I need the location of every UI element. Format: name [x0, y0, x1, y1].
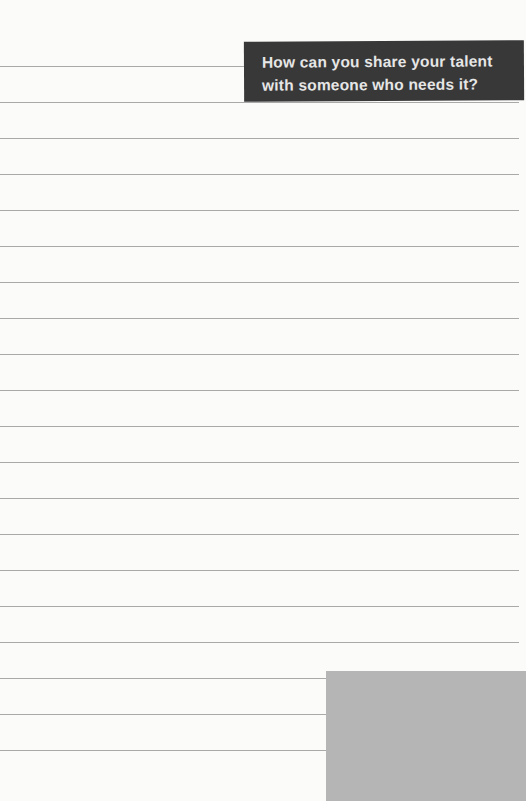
prompt-banner: How can you share your talent with someo… — [244, 40, 524, 101]
ruled-line — [0, 678, 326, 679]
ruled-line — [0, 174, 519, 175]
gray-paper-block — [326, 671, 526, 801]
ruled-line — [0, 138, 519, 139]
prompt-line-2: with someone who needs it? — [262, 72, 493, 96]
ruled-line — [0, 642, 519, 643]
ruled-line — [0, 246, 519, 247]
prompt-line-1: How can you share your talent — [262, 49, 493, 73]
ruled-line — [0, 426, 519, 427]
prompt-text: How can you share your talent with someo… — [262, 49, 493, 96]
ruled-line — [0, 750, 326, 751]
ruled-line — [0, 462, 519, 463]
ruled-line — [0, 390, 519, 391]
ruled-line — [0, 318, 519, 319]
ruled-line — [0, 498, 519, 499]
ruled-line — [0, 714, 326, 715]
ruled-line — [0, 282, 519, 283]
ruled-line — [0, 534, 519, 535]
ruled-line — [0, 570, 519, 571]
ruled-line — [0, 210, 519, 211]
ruled-line — [0, 354, 519, 355]
ruled-line — [0, 102, 519, 103]
ruled-line — [0, 606, 519, 607]
